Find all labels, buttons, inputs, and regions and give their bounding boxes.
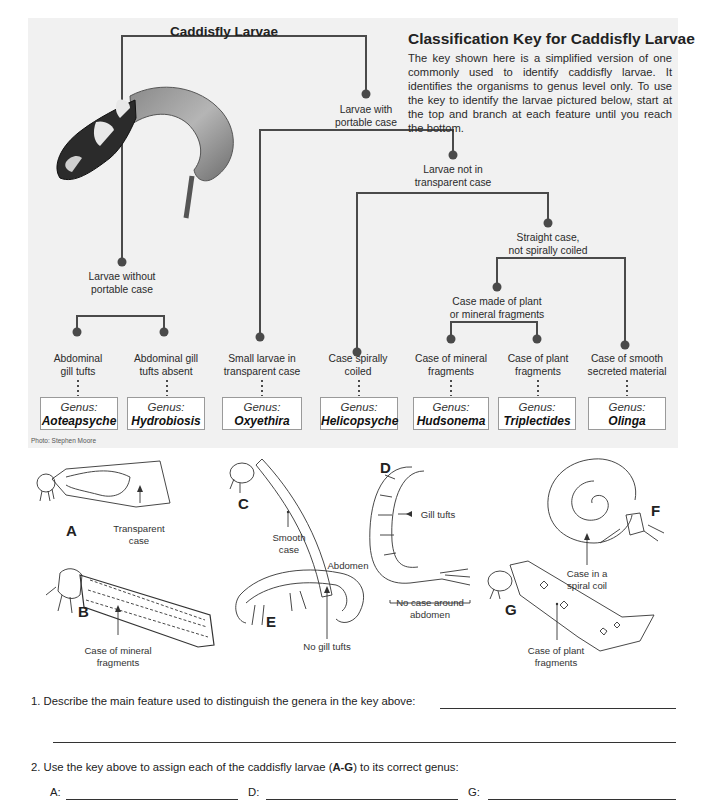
node-straight-case: Straight case,not spirally coiled <box>509 231 588 257</box>
leaf-feature-2: Abdominal gilltufts absent <box>134 352 198 378</box>
leaf-feature-5: Case of mineralfragments <box>415 352 487 378</box>
node-plant-or-mineral: Case made of plantor mineral fragments <box>450 295 544 321</box>
answer-label-a: A: <box>50 786 61 798</box>
annotation-f: Case in aspiral coil <box>567 568 608 591</box>
figure-label-g: G <box>505 601 517 618</box>
figure-label-d: D <box>380 459 391 476</box>
annotation-g: Case of plantfragments <box>528 645 585 668</box>
figure-label-c: C <box>238 495 249 512</box>
leaf-feature-3: Small larvae intransparent case <box>224 352 301 378</box>
genus-box-triplectides: Genus:Triplectides <box>498 397 576 430</box>
annotation-b: Case of mineralfragments <box>84 645 151 668</box>
node-not-transparent-case: Larvae not intransparent case <box>415 163 492 189</box>
answer-g-line[interactable] <box>488 799 676 800</box>
question-1: 1. Describe the main feature used to dis… <box>31 695 415 707</box>
leaf-feature-4: Case spirallycoiled <box>329 352 388 378</box>
larva-c-drawing <box>230 459 332 597</box>
figure-label-b: B <box>78 603 89 620</box>
larva-e-drawing <box>236 570 364 639</box>
figure-label-a: A <box>66 522 77 539</box>
answer-label-g: G: <box>468 786 480 798</box>
key-root-title: Caddisfly Larvae <box>170 24 278 39</box>
annotation-e: No gill tufts <box>303 641 350 653</box>
node-without-portable-case: Larvae withoutportable case <box>89 270 156 296</box>
figure-label-e: E <box>266 613 276 630</box>
annotation-a: Transparentcase <box>113 523 164 546</box>
answer-label-d: D: <box>248 786 259 798</box>
answer-1-line-2[interactable] <box>53 742 676 743</box>
genus-box-hudsonema: Genus:Hudsonema <box>413 397 489 430</box>
annotation-e-abdomen: Abdomen <box>327 560 368 572</box>
key-intro-text: The key shown here is a simplified versi… <box>408 51 672 135</box>
larva-b-drawing <box>46 569 214 647</box>
larva-a-drawing <box>37 461 170 507</box>
figure-label-f: F <box>651 502 660 519</box>
key-title: Classification Key for Caddisfly Larvae <box>408 30 695 48</box>
annotation-d-gill-tufts: Gill tufts <box>421 509 456 521</box>
question-2: 2. Use the key above to assign each of t… <box>31 761 459 773</box>
node-with-portable-case: Larvae withportable case <box>335 103 397 129</box>
larva-d-drawing <box>370 467 470 603</box>
answer-1-line-1[interactable] <box>440 708 676 709</box>
leaf-feature-6: Case of plantfragments <box>508 352 569 378</box>
genus-box-olinga: Genus:Olinga <box>588 397 666 430</box>
genus-box-helicopsyche: Genus:Helicopsyche <box>320 397 398 430</box>
leaf-feature-1: Abdominalgill tufts <box>54 352 103 378</box>
genus-box-aoteapsyche: Genus:Aoteapsyche <box>40 397 118 430</box>
answer-a-line[interactable] <box>66 799 238 800</box>
genus-box-hydrobiosis: Genus:Hydrobiosis <box>127 397 205 430</box>
annotation-c: Smoothcase <box>272 532 305 555</box>
leaf-feature-7: Case of smoothsecreted material <box>588 352 667 378</box>
larva-f-drawing <box>548 459 664 565</box>
genus-box-oxyethira: Genus:Oxyethira <box>222 397 302 430</box>
photo-credit: Photo: Stephen Moore <box>31 437 96 444</box>
answer-d-line[interactable] <box>266 799 458 800</box>
caddisfly-larva-photo <box>57 87 233 218</box>
annotation-d: No case aroundabdomen <box>396 597 464 620</box>
